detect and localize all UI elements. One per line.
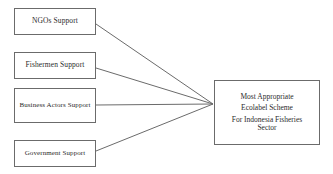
connector-fishermen-to-target	[96, 68, 213, 104]
node-fishermen-support-label: Fishermen Support	[26, 61, 85, 70]
node-government-support[interactable]: Government Support	[14, 140, 96, 167]
node-fishermen-support[interactable]: Fishermen Support	[14, 52, 96, 79]
node-business-actors-support[interactable]: Business Actors Support	[14, 88, 96, 123]
node-government-support-label: Government Support	[25, 149, 86, 157]
node-ngos-support-label: NGOs Support	[32, 17, 78, 26]
node-most-appropriate-ecolabel-scheme[interactable]: Most Appropriate Ecolabel Scheme For Ind…	[214, 80, 320, 145]
connector-ngos-to-target	[96, 24, 213, 104]
node-business-actors-support-label: Business Actors Support	[19, 101, 90, 109]
connector-business-to-target	[96, 104, 213, 105]
target-label-line-1: Most Appropriate	[240, 93, 293, 101]
target-label-line-2: Ecolabel Scheme	[241, 104, 293, 112]
target-label-line-4: Sector	[257, 124, 276, 132]
connector-government-to-target	[96, 104, 213, 151]
node-ngos-support[interactable]: NGOs Support	[14, 8, 96, 35]
diagram-canvas: NGOs Support Fishermen Support Business …	[0, 0, 333, 174]
